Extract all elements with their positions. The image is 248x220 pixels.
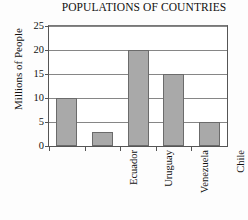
y-axis-title: Millions of People [12, 14, 24, 124]
y-tick-label: 5 [39, 117, 44, 128]
y-tick-label: 15 [34, 69, 45, 80]
bar-series [49, 26, 227, 146]
bar [128, 50, 149, 146]
x-axis-category-labels: EcuadorUruguayVenezuelaChileParaguay [48, 150, 228, 218]
bar [56, 98, 77, 146]
x-category-label: Ecuador [127, 150, 141, 218]
x-category-label: Venezuela [198, 150, 212, 218]
bar [92, 132, 113, 146]
y-tick-label: 20 [34, 45, 45, 56]
chart-title: POPULATIONS OF COUNTRIES [42, 1, 246, 13]
bar [199, 122, 220, 146]
bar-chart-screenshot: POPULATIONS OF COUNTRIES Millions of Peo… [0, 0, 248, 220]
bar [163, 74, 184, 146]
y-tick-label: 10 [34, 93, 45, 104]
x-category-label: Uruguay [162, 150, 176, 218]
plot-area: 0510152025 [48, 25, 228, 147]
y-tick-label: 25 [34, 21, 45, 32]
y-tick-label: 0 [39, 141, 44, 152]
x-category-label: Chile [234, 150, 248, 218]
